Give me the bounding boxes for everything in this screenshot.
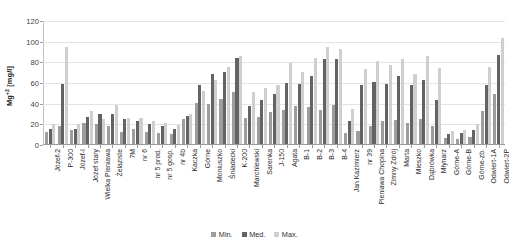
bar-max <box>488 67 491 145</box>
x-axis-label-cell: Górne-B <box>455 149 467 227</box>
x-axis-label-cell: Jan Kazimierz <box>343 149 355 227</box>
bar-max <box>339 49 342 144</box>
bar-max <box>451 131 454 144</box>
legend-label-max: Max. <box>282 230 298 239</box>
bar-group <box>355 21 367 144</box>
bar-max <box>77 124 80 144</box>
bar-max <box>202 91 205 144</box>
bar-group <box>119 21 131 144</box>
x-axis-label-cell: Górne-A <box>443 149 455 227</box>
x-axis-label-cell: Wielka Pieniawa <box>94 149 106 227</box>
bar-max <box>413 74 416 144</box>
bar-group <box>492 21 504 144</box>
x-axis-label-cell: Kaczka <box>181 149 193 227</box>
bar-group <box>405 21 417 144</box>
y-axis-tick-label: 120 <box>17 17 39 26</box>
bar-group <box>156 21 168 144</box>
y-axis-tick-mark <box>40 42 43 43</box>
x-axis-label-cell: nr 5 gosp. <box>156 149 168 227</box>
bar-max <box>239 56 242 144</box>
y-axis-tick-mark <box>40 124 43 125</box>
bar-max <box>177 125 180 144</box>
bar-group <box>94 21 106 144</box>
x-axis-label-cell: Żelaziste <box>106 149 118 227</box>
x-axis-label-cell: nr 5 prod. <box>144 149 156 227</box>
bar-max <box>90 111 93 144</box>
bar-max <box>189 114 192 144</box>
x-axis-label-cell: Odwiert-1A <box>480 149 492 227</box>
x-axis-label-cell: Mieszko <box>405 149 417 227</box>
plot-area <box>43 21 505 145</box>
bar-group <box>144 21 156 144</box>
x-axis-label-cell: J-150 <box>268 149 280 227</box>
x-axis-label-cell: B-4 <box>330 149 342 227</box>
x-axis-label-cell: Śniadecki <box>218 149 230 227</box>
x-axis-label-cell: Odwiert-2P <box>492 149 504 227</box>
bar-max <box>264 88 267 144</box>
bar-max <box>52 124 55 144</box>
bar-max <box>376 61 379 144</box>
bar-group <box>293 21 305 144</box>
x-axis-label-cell: Agata <box>281 149 293 227</box>
legend-item-max: Max. <box>274 230 297 239</box>
bar-max <box>214 80 217 144</box>
bar-group <box>380 21 392 144</box>
x-axis-label-cell: nr 6 <box>131 149 143 227</box>
x-axis-tick-labels: Józef-2P-300Józef-IJózef staryWielka Pie… <box>44 149 505 227</box>
x-axis-label-cell: Marta <box>393 149 405 227</box>
y-axis-tick-mark <box>40 145 43 146</box>
y-axis-title-text: Mg+2 [mg/l] <box>4 66 14 106</box>
bar-max <box>351 109 354 144</box>
bar-group <box>306 21 318 144</box>
legend-swatch-max <box>274 232 279 237</box>
x-axis-label-cell: P-300 <box>56 149 68 227</box>
y-axis-tick-mark <box>40 83 43 84</box>
bar-group <box>443 21 455 144</box>
chart-legend: Min.Med.Max. <box>0 230 509 239</box>
bar-group <box>480 21 492 144</box>
x-axis-label-cell: Pieniawa Chopina <box>368 149 380 227</box>
bar-group <box>193 21 205 144</box>
bar-max <box>389 65 392 144</box>
bar-group <box>467 21 479 144</box>
bar-group <box>206 21 218 144</box>
bar-group <box>106 21 118 144</box>
bar-max <box>65 47 68 144</box>
bar-group <box>418 21 430 144</box>
x-axis-label-cell: nr 39 <box>355 149 367 227</box>
x-axis-label-cell: B-2 <box>306 149 318 227</box>
bar-max <box>463 130 466 144</box>
bar-max <box>276 85 279 144</box>
x-axis-label-cell: Górne-zb. <box>467 149 479 227</box>
x-axis-label-cell: B-3 <box>318 149 330 227</box>
bar-max <box>301 72 304 144</box>
legend-item-min: Min. <box>211 230 232 239</box>
y-axis-tick-mark <box>40 21 43 22</box>
y-axis-tick-label: 40 <box>17 99 39 108</box>
legend-item-med: Med. <box>242 230 266 239</box>
bar-group <box>231 21 243 144</box>
bar-group <box>268 21 280 144</box>
bar-group <box>131 21 143 144</box>
y-axis-tick-label: 0 <box>17 141 39 150</box>
y-axis-tick-label: 100 <box>17 37 39 46</box>
x-axis-label-cell: Marchlewski <box>243 149 255 227</box>
legend-label-min: Min. <box>219 230 233 239</box>
bar-max <box>164 123 167 144</box>
x-axis-tick-label: Odwiert-2P <box>502 149 509 183</box>
bar-group <box>368 21 380 144</box>
legend-label-med: Med. <box>249 230 265 239</box>
bar-max <box>102 119 105 144</box>
y-axis-tick-label: 20 <box>17 120 39 129</box>
bar-group <box>430 21 442 144</box>
y-axis-tick-mark <box>40 104 43 105</box>
x-axis-label-cell: nr 4b <box>169 149 181 227</box>
y-axis-tick-mark <box>40 62 43 63</box>
bar-group <box>330 21 342 144</box>
x-axis-label-cell: Józef-2 <box>44 149 56 227</box>
bar-group <box>243 21 255 144</box>
bar-group <box>318 21 330 144</box>
bar-max <box>227 67 230 145</box>
bar-max <box>127 118 130 144</box>
x-axis-label-cell: Józef stary <box>81 149 93 227</box>
